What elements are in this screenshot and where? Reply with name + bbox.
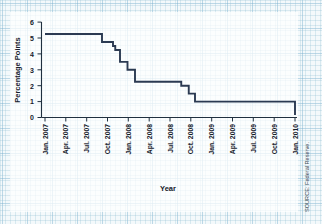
source-note: SOURCE: Federal Reserve.: [304, 142, 310, 212]
y-tick-label: 6: [30, 19, 34, 26]
x-tick-label: Jan. 2010: [292, 124, 299, 155]
y-tick-label: 2: [30, 83, 34, 90]
y-tick-label: 4: [30, 51, 34, 58]
y-tick-marks: [38, 22, 42, 117]
x-tick-label: Jul. 2009: [250, 124, 257, 153]
x-tick-label: Jul. 2007: [83, 124, 90, 153]
y-tick-labels: 0 1 2 3 4 5 6: [30, 19, 34, 121]
x-tick-label: Jan. 2009: [208, 124, 215, 155]
x-tick-label: Jan. 2008: [125, 124, 132, 155]
x-tick-label: Oct. 2008: [187, 124, 194, 154]
x-tick-label: Jul. 2008: [167, 124, 174, 153]
x-tick-marks: [45, 118, 295, 122]
x-tick-label: Oct. 2007: [104, 124, 111, 154]
x-tick-label: Apr. 2007: [62, 124, 70, 154]
x-tick-label: Oct. 2009: [271, 124, 278, 154]
chart-figure: 0 1 2 3 4 5 6 Jan. 2007 Apr.: [0, 0, 322, 224]
y-tick-label: 0: [30, 114, 34, 121]
chart-svg: 0 1 2 3 4 5 6 Jan. 2007 Apr.: [0, 0, 322, 224]
x-tick-label: Jan. 2007: [42, 124, 49, 155]
x-axis-title: Year: [160, 184, 176, 193]
y-axis-title: Percentage Points: [13, 37, 22, 102]
x-tick-label: Apr. 2009: [229, 124, 237, 154]
y-tick-label: 5: [30, 35, 34, 42]
y-tick-label: 3: [30, 67, 34, 74]
x-tick-labels: Jan. 2007 Apr. 2007 Jul. 2007 Oct. 2007 …: [42, 124, 299, 155]
series-line-federal-funds-rate: [45, 34, 295, 115]
y-tick-label: 1: [30, 98, 34, 105]
x-tick-label: Apr. 2008: [146, 124, 154, 154]
